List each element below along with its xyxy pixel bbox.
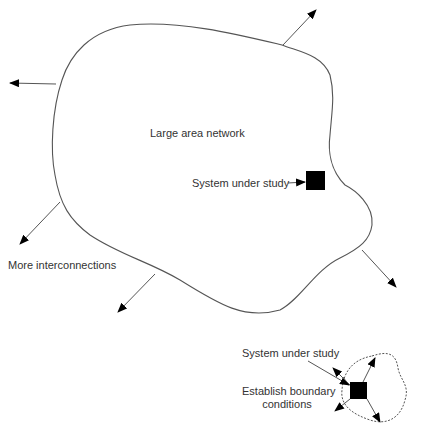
small-arrow-upright [363,358,375,382]
network-diagram [0,0,442,435]
system-pointer-arrow [288,182,305,183]
arrow-top-right [283,10,316,45]
small-arrow-downright [367,399,380,422]
arrow-bottom-left [118,274,155,312]
system-label: System under study [192,177,289,190]
small-system-block [350,382,367,399]
more-interconnections-label: More interconnections [8,259,116,272]
arrow-lower-left [20,202,60,244]
small-arrow-downleft [335,399,350,411]
arrow-bottom-right [362,250,396,287]
small-system-label: System under study [242,347,339,360]
system-block [306,171,325,190]
arrow-left [10,83,56,84]
boundary-label-line2: conditions [242,398,332,411]
boundary-label: Establish boundary conditions [242,385,332,411]
small-system-pointer [308,361,349,385]
boundary-label-line1: Establish boundary [242,385,332,398]
network-label: Large area network [150,127,245,140]
